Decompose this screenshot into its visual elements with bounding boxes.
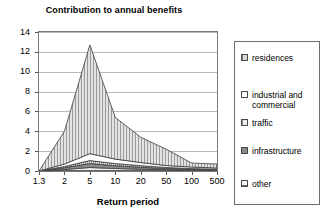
y-axis-tick-label: 4 <box>2 127 30 136</box>
traffic-swatch-icon <box>241 119 248 126</box>
other-swatch-icon <box>241 180 248 187</box>
y-axis-tick-label: 8 <box>2 87 30 96</box>
chart-legend: residencesindustrial andcommercialtraffi… <box>234 41 320 205</box>
legend-item-infrastructure[interactable]: infrastructure <box>241 146 302 156</box>
x-axis-tick-mark <box>115 172 116 175</box>
legend-item-residences[interactable]: residences <box>241 53 293 63</box>
area-series-residences <box>39 45 217 171</box>
chart-screenshot: Contribution to annual benefits 02468101… <box>0 0 330 222</box>
residences-swatch-icon <box>241 54 248 61</box>
stacked-area-series <box>39 32 217 171</box>
chart-title: Contribution to annual benefits <box>0 5 228 15</box>
y-axis-tick-label: 0 <box>2 167 30 176</box>
infrastructure-swatch-icon <box>241 147 248 154</box>
x-axis-tick-label: 100 <box>180 177 204 186</box>
y-axis-tick-label: 12 <box>2 47 30 56</box>
x-axis-tick-label: 50 <box>154 177 178 186</box>
x-axis-tick-label: 500 <box>205 177 229 186</box>
legend-item-label: other <box>252 179 271 189</box>
x-axis-tick-mark <box>90 172 91 175</box>
x-axis-title: Return period <box>38 196 218 207</box>
x-axis-tick-mark <box>141 172 142 175</box>
chart-panel: Contribution to annual benefits 02468101… <box>0 0 228 222</box>
x-axis-tick-mark <box>217 172 218 175</box>
legend-item-label: infrastructure <box>252 146 302 156</box>
x-axis-tick-label: 10 <box>103 177 127 186</box>
x-axis-tick-label: 20 <box>129 177 153 186</box>
x-axis-tick-mark <box>39 172 40 175</box>
x-axis-tick-mark <box>64 172 65 175</box>
legend-item-other[interactable]: other <box>241 179 271 189</box>
x-axis-tick-label: 1.3 <box>27 177 51 186</box>
y-axis-tick-label: 6 <box>2 107 30 116</box>
y-axis-tick-label: 10 <box>2 67 30 76</box>
x-axis-tick-mark <box>192 172 193 175</box>
y-axis-tick-label: 14 <box>2 28 30 37</box>
legend-item-label: residences <box>252 53 293 63</box>
y-axis-tick-label: 2 <box>2 147 30 156</box>
x-axis-tick-label: 2 <box>52 177 76 186</box>
legend-item-label: traffic <box>252 118 273 128</box>
industrial-swatch-icon <box>241 91 248 98</box>
x-axis-tick-mark <box>166 172 167 175</box>
plot-area <box>38 31 218 172</box>
legend-item-traffic[interactable]: traffic <box>241 118 273 128</box>
legend-item-industrial-and[interactable]: industrial andcommercial <box>241 90 303 110</box>
x-axis-tick-label: 5 <box>78 177 102 186</box>
legend-item-label: industrial andcommercial <box>252 90 303 110</box>
